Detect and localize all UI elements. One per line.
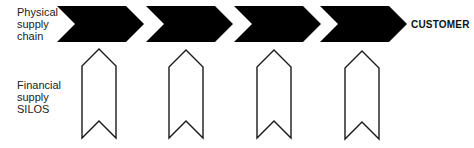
physical-chevron-2 <box>146 6 233 42</box>
financial-silo-3 <box>257 50 291 138</box>
physical-chevron-3 <box>234 6 321 42</box>
supply-chain-diagram <box>0 0 474 148</box>
financial-silo-1 <box>82 49 116 138</box>
physical-chevron-row <box>57 6 407 42</box>
financial-silo-2 <box>169 50 203 138</box>
physical-chevron-1 <box>57 6 144 42</box>
physical-chevron-4 <box>320 6 407 42</box>
financial-silo-4 <box>345 51 379 139</box>
financial-silo-row <box>82 49 379 139</box>
